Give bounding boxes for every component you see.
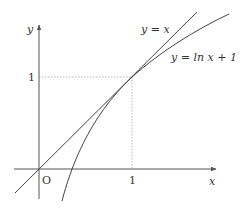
origin-label: O [42, 174, 51, 187]
curve-ln-x-plus-1 [62, 14, 229, 201]
curve-label: y = ln x + 1 [170, 51, 237, 64]
graph: y x O 1 1 y = x y = ln x + 1 [0, 0, 242, 213]
x-axis-label: x [209, 175, 216, 188]
line-label: y = x [140, 23, 170, 36]
y-axis-label: y [26, 23, 34, 36]
y-tick-1: 1 [28, 71, 35, 84]
x-tick-1: 1 [129, 174, 136, 187]
line-y-equals-x [15, 12, 197, 193]
